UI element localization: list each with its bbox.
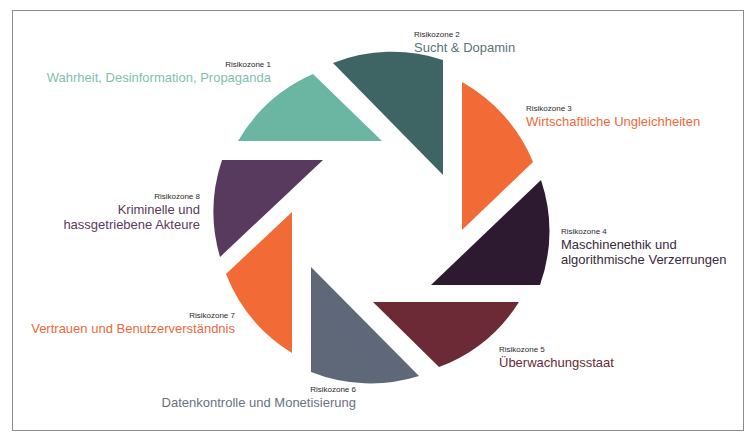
zone-4-title-line-1: Maschinenethik und [561,238,726,253]
zone-7-number: Risikozone 7 [31,311,235,320]
zone-7-title: Vertrauen und Benutzerverständnis [31,322,235,337]
zone-2-number: Risikozone 2 [414,30,515,39]
zone-1-number: Risikozone 1 [47,60,271,69]
zone-1-label: Risikozone 1 Wahrheit, Desinformation, P… [47,60,271,86]
zone-8-number: Risikozone 8 [63,192,200,201]
zone-2-title: Sucht & Dopamin [414,41,515,56]
zone-8-label: Risikozone 8 Kriminelle und hassgetriebe… [63,192,200,233]
zone-6-label: Risikozone 6 Datenkontrolle und Monetisi… [162,385,356,411]
zone-4-title-line-2: algorithmische Verzerrungen [561,253,726,268]
zone-8-title-line-2: hassgetriebene Akteure [63,218,200,233]
zone-5-number: Risikozone 5 [499,345,614,354]
zone-6-number: Risikozone 6 [162,385,356,394]
zone-4-label: Risikozone 4 Maschinenethik und algorith… [561,227,726,268]
zone-8-title-line-1: Kriminelle und [63,203,200,218]
zone-3-label: Risikozone 3 Wirtschaftliche Ungleichhei… [526,104,700,130]
zone-2-label: Risikozone 2 Sucht & Dopamin [414,30,515,56]
zone-3-title: Wirtschaftliche Ungleichheiten [526,115,700,130]
zone-1-title: Wahrheit, Desinformation, Propaganda [47,71,271,86]
zone-4-number: Risikozone 4 [561,227,726,236]
zone-5-title: Überwachungsstaat [499,356,614,371]
zone-5-label: Risikozone 5 Überwachungsstaat [499,345,614,371]
zone-6-title: Datenkontrolle und Monetisierung [162,396,356,411]
zone-3-number: Risikozone 3 [526,104,700,113]
zone-7-label: Risikozone 7 Vertrauen und Benutzerverst… [31,311,235,337]
